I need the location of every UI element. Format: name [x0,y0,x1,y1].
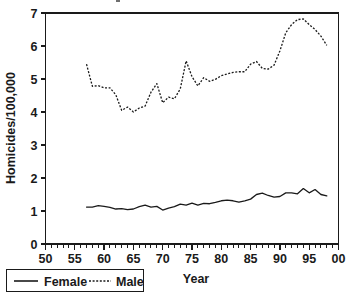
legend-label-female: Female [44,275,87,289]
y-tick-label: 4 [31,106,38,120]
x-tick-label: 65 [126,252,140,266]
chart-legend: Female Male [7,270,144,292]
x-tick-label: 75 [185,252,199,266]
artifact-mark [116,0,120,2]
x-tick-label: 50 [39,252,53,266]
series-line-male [87,19,327,112]
y-axis-tick-labels: 01234567 [31,7,38,252]
y-tick-label: 0 [31,238,38,252]
plot-frame [46,13,339,244]
x-axis-ticks [46,244,339,250]
legend-label-male: Male [116,275,144,289]
y-tick-label: 7 [31,7,38,21]
x-tick-label: 00 [332,252,346,266]
x-tick-label: 70 [156,252,170,266]
y-tick-label: 5 [31,73,38,87]
x-tick-label: 90 [273,252,287,266]
x-tick-label: 55 [68,252,82,266]
y-tick-label: 6 [31,40,38,54]
x-axis-title: Year [183,272,210,286]
y-tick-label: 2 [31,172,38,186]
y-axis-title: Homicides/100,000 [4,72,18,184]
x-tick-label: 80 [214,252,228,266]
chart-figure: 01234567 5055606570758085909500 Homicide… [0,0,350,297]
x-tick-label: 85 [244,252,258,266]
series-line-female [87,189,327,210]
x-tick-label: 60 [97,252,111,266]
line-chart-svg: 01234567 5055606570758085909500 Homicide… [0,0,350,297]
y-axis-ticks [41,13,46,244]
x-tick-label: 95 [302,252,316,266]
x-axis-tick-labels: 5055606570758085909500 [39,252,346,266]
y-tick-label: 3 [31,139,38,153]
y-tick-label: 1 [31,205,38,219]
